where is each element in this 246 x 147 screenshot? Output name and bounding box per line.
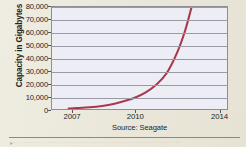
y-axis-tick [48,19,51,20]
x-axis-tick [72,110,73,113]
x-axis-tick [220,110,221,113]
x-tick-label: 2014 [200,112,240,121]
y-axis-tick [48,97,51,98]
gridline [52,46,227,47]
y-axis-tick [48,71,51,72]
gridline [52,20,227,21]
plot-area [51,6,228,110]
page-divider [9,137,240,138]
y-axis-tick [48,110,51,111]
source-note: Source: Seagate [51,123,228,132]
gridline [52,85,227,86]
y-axis-tick [48,6,51,7]
y-axis-tick [48,32,51,33]
y-tick-label: 60,000 [2,28,48,37]
y-tick-label: 40,000 [2,54,48,63]
gridline [52,98,227,99]
x-tick-label: 2010 [115,112,155,121]
y-axis-tick [48,84,51,85]
chart-figure: Capacity in Gigabytes 010,00020,00030,00… [0,0,246,147]
y-tick-label: 0 [2,106,48,115]
y-tick-label: 10,000 [2,93,48,102]
capacity-curve [52,7,227,109]
y-axis-tick [48,45,51,46]
y-axis-tick [48,58,51,59]
y-tick-label: 30,000 [2,67,48,76]
gridline [52,7,227,8]
gridline [52,72,227,73]
y-axis-tick-labels: 010,00020,00030,00040,00050,00060,00070,… [0,0,48,120]
x-tick-label: 2007 [52,112,92,121]
x-axis-tick [135,110,136,113]
y-tick-label: 80,000 [2,2,48,11]
cropped-body-text: ····· ········· ···· ······ ····· ······… [9,139,240,147]
y-tick-label: 70,000 [2,15,48,24]
gridline [52,33,227,34]
y-tick-label: 20,000 [2,80,48,89]
y-tick-label: 50,000 [2,41,48,50]
gridline [52,59,227,60]
